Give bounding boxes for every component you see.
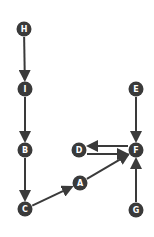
node-b-label: B — [22, 146, 28, 155]
directed-graph: H I B C A D F E G — [0, 0, 154, 237]
node-e-label: E — [133, 85, 138, 94]
node-i: I — [18, 82, 33, 97]
node-b: B — [18, 143, 33, 158]
edge-a-to-f — [87, 155, 128, 179]
edge-c-to-a — [32, 187, 72, 206]
node-d: D — [72, 143, 87, 158]
node-h: H — [17, 22, 32, 37]
node-h-label: H — [21, 25, 28, 34]
node-f-label: F — [133, 146, 138, 155]
node-g-label: G — [133, 206, 140, 215]
node-a: A — [73, 176, 88, 191]
node-d-label: D — [76, 146, 83, 155]
nodes-layer: H I B C A D F E G — [17, 22, 144, 218]
node-f: F — [129, 143, 144, 158]
node-a-label: A — [77, 179, 84, 188]
node-i-label: I — [24, 85, 27, 94]
node-c: C — [18, 202, 33, 217]
edge-h-to-i — [24, 37, 25, 80]
node-e: E — [129, 82, 144, 97]
node-c-label: C — [22, 205, 28, 214]
node-g: G — [129, 203, 144, 218]
